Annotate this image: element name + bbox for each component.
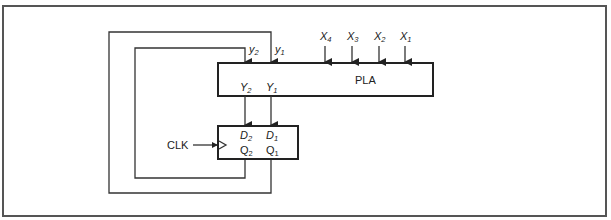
input-label-x3: X3	[346, 30, 359, 44]
feedback-wire-q1-y1	[109, 32, 271, 193]
input-label-x4: X4	[319, 30, 332, 44]
feedback-label-y1: y1	[274, 43, 285, 57]
pla-label: PLA	[355, 74, 376, 86]
input-label-x2: X2	[373, 30, 386, 44]
flipflop-block	[218, 126, 298, 159]
circuit-diagram: PLA X4 X3 X2 X1 y2 y1 Y2 Y1 D2 D1 Q2 Q1 …	[0, 0, 611, 220]
feedback-label-y2: y2	[248, 43, 260, 57]
input-label-x1: X1	[399, 30, 412, 44]
figure-frame	[3, 6, 606, 216]
clock-label: CLK	[167, 139, 189, 151]
